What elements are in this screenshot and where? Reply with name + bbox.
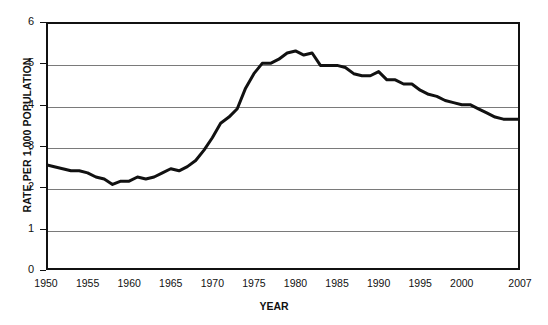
x-tick-label-1950: 1950 (34, 278, 57, 289)
y-tick-label-5: 5 (10, 57, 34, 68)
x-tick-label-1995: 1995 (409, 278, 432, 289)
x-tick-label-1990: 1990 (367, 278, 390, 289)
gridline-y-1 (48, 231, 518, 232)
gridline-y-2 (48, 189, 518, 190)
x-tick-label-2000: 2000 (450, 278, 473, 289)
gridline-y-3 (48, 148, 518, 149)
y-tick-label-4: 4 (10, 99, 34, 110)
gridline-y-4 (48, 107, 518, 108)
y-tick-mark-0 (40, 270, 46, 271)
gridline-y-5 (48, 65, 518, 66)
plot-area (46, 22, 520, 270)
y-tick-label-3: 3 (10, 140, 34, 151)
y-tick-label-1: 1 (10, 223, 34, 234)
y-tick-label-0: 0 (10, 264, 34, 275)
x-tick-label-1970: 1970 (201, 278, 224, 289)
chart-figure: RATE PER 1,000 POPULATION 0123456 195019… (0, 0, 548, 325)
x-tick-label-1955: 1955 (76, 278, 99, 289)
x-axis-title: YEAR (0, 300, 548, 312)
x-tick-label-1985: 1985 (325, 278, 348, 289)
x-tick-label-1965: 1965 (159, 278, 182, 289)
y-tick-label-2: 2 (10, 181, 34, 192)
x-tick-label-2007: 2007 (508, 278, 531, 289)
y-tick-label-6: 6 (10, 16, 34, 27)
x-tick-label-1980: 1980 (284, 278, 307, 289)
x-tick-label-1975: 1975 (242, 278, 265, 289)
x-tick-label-1960: 1960 (117, 278, 140, 289)
